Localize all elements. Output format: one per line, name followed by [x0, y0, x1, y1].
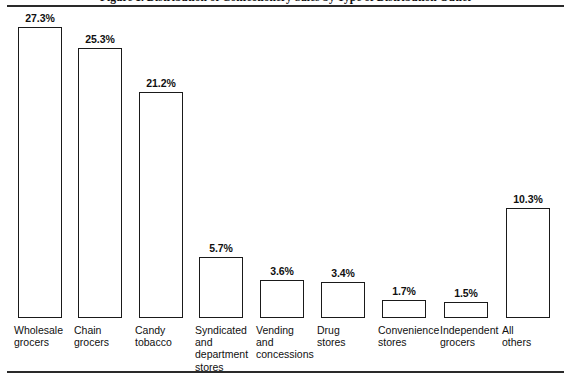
figure-container: Figure 1. Distribution of Confectionery …	[0, 0, 571, 385]
bar	[260, 280, 304, 318]
bar-value-label: 1.5%	[434, 287, 498, 299]
bar	[506, 208, 550, 318]
bar-category-label: Syndicated and department stores	[195, 324, 257, 373]
bar-value-label: 27.3%	[8, 12, 72, 24]
bar-value-label: 25.3%	[68, 33, 132, 45]
bar-category-label: Wholesale grocers	[14, 324, 76, 348]
bar-category-label: Candy tobacco	[135, 324, 197, 348]
bar-category-label: Vending and concessions	[256, 324, 318, 361]
bar	[382, 300, 426, 318]
bar-chart-plot-area: 27.3%Wholesale grocers25.3%Chain grocers…	[0, 0, 571, 385]
bar-value-label: 21.2%	[129, 77, 193, 89]
bar-category-label: Convenience stores	[378, 324, 440, 348]
bar-category-label: All others	[502, 324, 564, 348]
bar-value-label: 1.7%	[372, 285, 436, 297]
bar-value-label: 3.4%	[311, 267, 375, 279]
bar	[78, 48, 122, 318]
bar-value-label: 3.6%	[250, 265, 314, 277]
bar-category-label: Chain grocers	[74, 324, 136, 348]
bar-value-label: 5.7%	[189, 242, 253, 254]
bar	[18, 27, 62, 318]
bar-category-label: Independent grocers	[440, 324, 502, 348]
bottom-rule-divider	[7, 371, 564, 373]
bar	[139, 92, 183, 318]
bar	[199, 257, 243, 318]
bar-value-label: 10.3%	[496, 193, 560, 205]
bar	[444, 302, 488, 318]
bar-category-label: Drug stores	[317, 324, 379, 348]
bar	[321, 282, 365, 318]
